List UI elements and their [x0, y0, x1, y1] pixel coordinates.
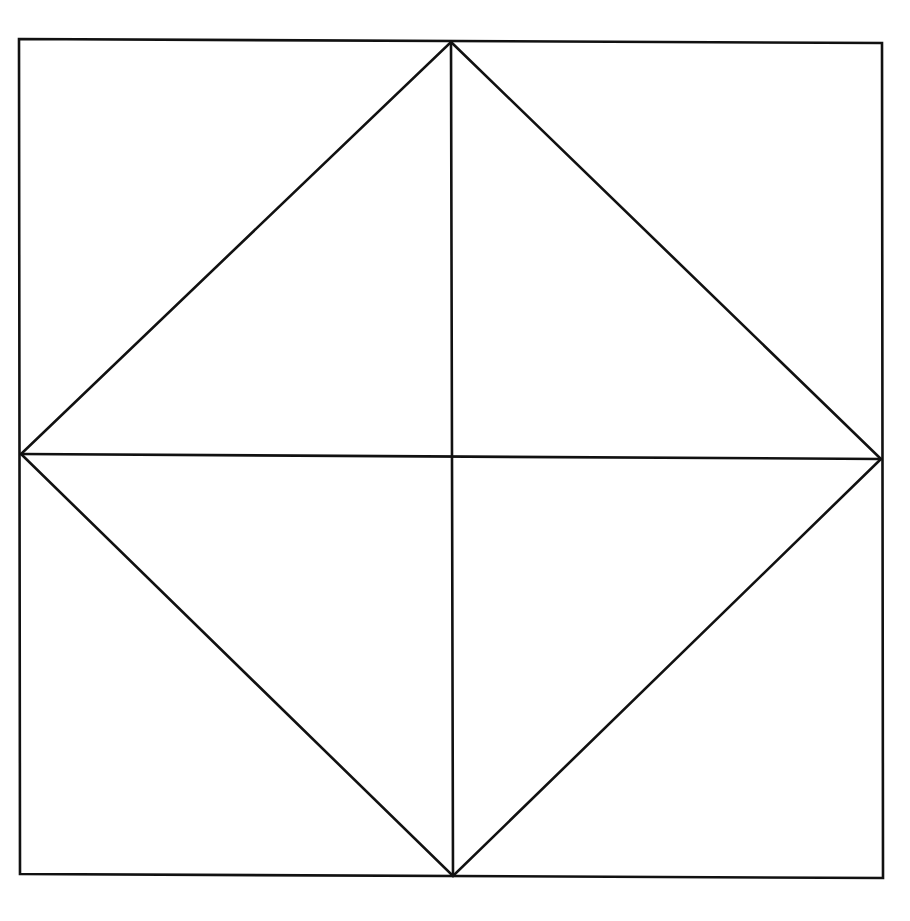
diagram-canvas [0, 0, 910, 921]
geometry-figure [0, 0, 910, 921]
vertical-midline [451, 42, 453, 876]
